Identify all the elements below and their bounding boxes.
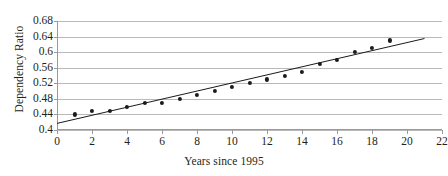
y-tick-label: 0.44 [33,109,53,121]
x-tick-mark [442,130,443,134]
y-tick-label: 0.56 [33,62,53,74]
x-tick-mark [267,130,268,134]
x-tick-label: 10 [226,136,238,148]
x-tick-mark [127,130,128,134]
y-tick-label: 0.48 [33,93,53,105]
trend-line [57,21,442,130]
x-tick-label: 2 [89,136,95,148]
y-axis-title: Dependency Ratio [13,9,25,129]
x-tick-mark [162,130,163,134]
x-tick-mark [372,130,373,134]
x-tick-label: 18 [366,136,378,148]
y-tick-label: 0.68 [33,15,53,27]
x-tick-label: 12 [261,136,273,148]
plot-area: 0.40.440.480.520.560.60.640.68 024681012… [57,21,442,130]
chart-container: Dependency Ratio 0.40.440.480.520.560.60… [0,0,448,176]
y-tick-label: 0.52 [33,78,53,90]
x-tick-mark [302,130,303,134]
x-tick-mark [92,130,93,134]
x-tick-mark [197,130,198,134]
x-tick-label: 20 [401,136,413,148]
x-tick-label: 6 [159,136,165,148]
x-axis-title: Years since 1995 [0,155,448,167]
x-tick-mark [57,130,58,134]
x-tick-mark [407,130,408,134]
x-tick-label: 8 [194,136,200,148]
x-tick-mark [337,130,338,134]
x-tick-mark [232,130,233,134]
x-tick-label: 0 [54,136,60,148]
gridline [57,130,442,131]
x-tick-label: 22 [436,136,448,148]
y-tick-label: 0.64 [33,31,53,43]
x-tick-label: 16 [331,136,343,148]
y-tick-label: 0.6 [39,46,53,58]
x-tick-label: 4 [124,136,130,148]
y-tick-label: 0.4 [39,124,53,136]
x-tick-label: 14 [296,136,308,148]
